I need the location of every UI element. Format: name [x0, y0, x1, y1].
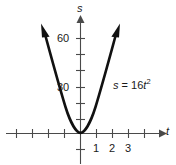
equation-annotation: s = 16t2: [113, 78, 151, 91]
y-tick-label-60: 60: [57, 33, 69, 44]
parabola-figure: s t 60 30 1 2 3 s = 16t2: [0, 0, 176, 165]
x-axis-label: t: [166, 126, 169, 137]
y-axis-group: [76, 15, 85, 164]
y-tick-label-30: 30: [57, 82, 69, 93]
y-axis-label: s: [77, 3, 83, 14]
curve-left-arrow-icon: [41, 24, 50, 38]
equation-exponent: 2: [146, 77, 150, 86]
x-tick-label-1: 1: [93, 143, 99, 154]
curve-right-arrow-icon: [111, 24, 120, 38]
y-axis-arrow-icon: [77, 15, 85, 23]
x-tick-label-2: 2: [109, 143, 115, 154]
equation-coefficient: 16: [131, 79, 143, 91]
x-tick-label-3: 3: [125, 143, 131, 154]
x-axis-group: [6, 129, 167, 138]
